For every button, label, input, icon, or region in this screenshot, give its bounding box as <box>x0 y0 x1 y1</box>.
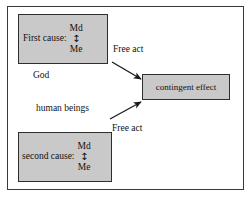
contingent-effect-label: contingent effect <box>156 82 217 92</box>
first-cause-modal-bottom: Me <box>70 44 83 55</box>
first-cause-modal-stack: Md ↕ Me <box>70 23 83 55</box>
first-cause-content: First cause: Md ↕ Me <box>19 15 107 63</box>
double-arrow-icon: ↕ <box>72 34 80 45</box>
free-act-label-top: Free act <box>113 45 143 55</box>
first-cause-label: First cause: <box>19 34 67 44</box>
second-cause-content: second cause: Md ↕ Me <box>19 133 111 181</box>
diagram-canvas: First cause: Md ↕ Me second cause: Md ↕ … <box>0 0 252 198</box>
double-arrow-icon: ↕ <box>80 152 88 163</box>
human-beings-label: human beings <box>36 104 89 114</box>
second-cause-modal-stack: Md ↕ Me <box>78 141 91 173</box>
first-cause-box: First cause: Md ↕ Me <box>18 14 108 64</box>
second-cause-modal-bottom: Me <box>78 162 91 173</box>
second-cause-box: second cause: Md ↕ Me <box>18 132 112 182</box>
free-act-label-bottom: Free act <box>112 124 142 134</box>
second-cause-label: second cause: <box>19 152 75 162</box>
contingent-effect-box: contingent effect <box>142 74 230 100</box>
god-label: God <box>33 71 49 81</box>
